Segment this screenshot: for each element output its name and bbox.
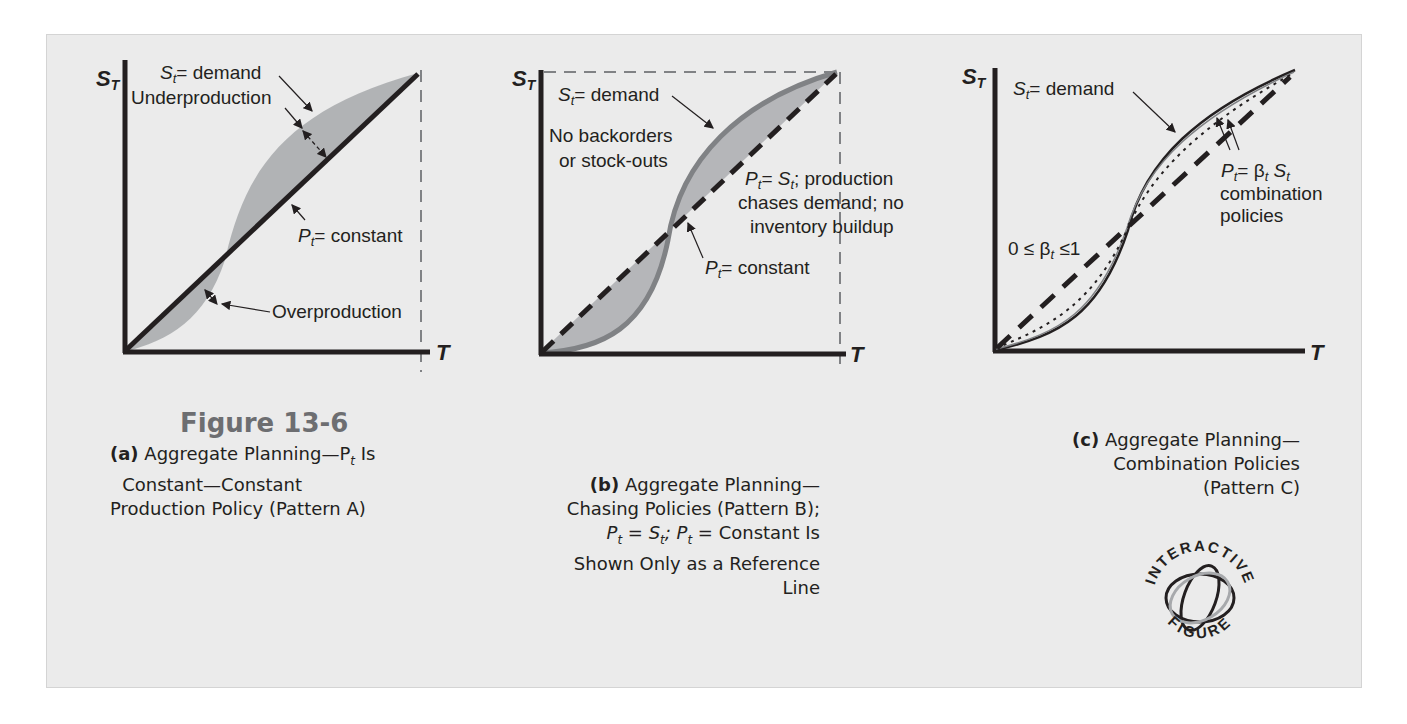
caption-b: (b) Aggregate Planning— Chasing Policies… [520,473,820,600]
chart-b-constant-reference-line [542,74,836,352]
chart-b-chase-line3: inventory buildup [750,216,894,237]
chart-b-production-pointer [688,223,703,258]
chart-b-no-backorders-line2: or stock-outs [559,150,668,171]
chart-c-combo-line2: combination [1220,183,1322,204]
chart-c-demand-label: St= demand [1013,78,1114,102]
chart-a-underproduction-pointer [285,108,302,128]
logo-bottom-text: FIGURE [1165,612,1235,641]
chart-c-beta-range: 0 ≤ βt ≤1 [1008,238,1080,262]
interactive-figure-logo[interactable]: INTERACTIVE FIGURE [1135,530,1265,660]
chart-b-demand-label: St= demand [558,84,659,108]
chart-b-demand-pointer [672,96,713,128]
chart-a-underproduction-label: Underproduction [131,87,271,108]
chart-a-overproduction-pointer [222,304,270,312]
chart-a-demand-pointer [279,76,312,111]
chart-a-x-label: T [436,340,451,365]
caption-c: (c) Aggregate Planning— Combination Poli… [1030,428,1300,500]
chart-c-combo-line1: Pt= βt St [1221,160,1291,184]
chart-c-x-label: T [1310,340,1325,365]
chart-b-chase-line1: Pt= St; production [745,168,893,192]
logo-top-text: INTERACTIVE [1141,537,1258,587]
chart-b: ST T St= demand No backorders or stock-o… [512,66,904,370]
chart-c-combo-line3: policies [1220,205,1283,226]
chart-a-overproduction-label: Overproduction [272,301,402,322]
chart-b-production-label: Pt= constant [705,257,810,281]
caption-a: (a) Aggregate Planning—Pt Is Constant—Co… [110,442,302,521]
chart-a-y-label: ST [96,66,121,93]
chart-b-y-label: ST [512,66,537,93]
chart-c-demand-pointer [1133,92,1175,132]
chart-a-production-label: Pt= constant [298,225,403,249]
chart-b-x-label: T [850,342,865,367]
chart-c-y-label: ST [962,64,987,91]
chart-a-demand-label: St= demand [160,62,261,86]
chart-c: ST T St= demand Pt= βt St combination po… [962,64,1325,365]
chart-b-no-backorders-line1: No backorders [549,125,673,146]
chart-a-production-pointer [292,205,305,220]
chart-b-chase-line2: chases demand; no [738,192,904,213]
figure-title: Figure 13-6 [180,408,300,438]
chart-a: ST T St= demand Underproduction Pt= cons… [96,60,451,372]
